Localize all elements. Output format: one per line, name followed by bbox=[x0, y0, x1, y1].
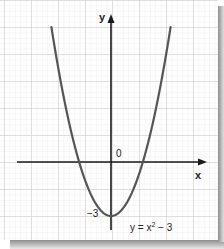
major-grid bbox=[0, 0, 218, 240]
equation-label: y = x2 − 3 bbox=[130, 221, 172, 233]
paper-shadow-bottom bbox=[10, 240, 224, 249]
vertex-value-label: −3 bbox=[87, 209, 98, 219]
parabola-plot bbox=[0, 0, 224, 249]
equation-tail: − 3 bbox=[155, 222, 172, 233]
origin-label: 0 bbox=[116, 149, 122, 159]
graph-paper: y x 0 −3 y = x2 − 3 bbox=[0, 0, 224, 249]
paper-shadow-right bbox=[218, 6, 224, 242]
x-axis-label: x bbox=[195, 170, 201, 181]
y-axis-label: y bbox=[99, 12, 105, 23]
equation-base: y = x bbox=[130, 222, 151, 233]
